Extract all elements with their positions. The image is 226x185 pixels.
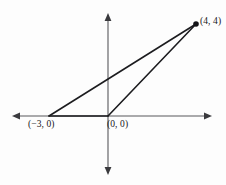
point-label-4-4: (4, 4) <box>200 17 221 27</box>
point-label-neg3-0: (−3, 0) <box>28 120 55 130</box>
point-label-origin: (0, 0) <box>107 120 128 130</box>
x-axis-left-arrow-icon <box>12 113 20 120</box>
point-marker-4-4 <box>193 21 199 27</box>
y-axis-down-arrow-icon <box>105 167 112 175</box>
y-axis-up-arrow-icon <box>105 13 112 21</box>
x-axis-right-arrow-icon <box>204 113 212 120</box>
coordinate-plane-figure: (−3, 0) (0, 0) (4, 4) <box>0 0 226 185</box>
triangle-group <box>49 24 196 116</box>
graph-canvas <box>0 0 226 185</box>
y-axis-group <box>105 13 112 175</box>
segment-hypotenuse <box>49 24 196 116</box>
